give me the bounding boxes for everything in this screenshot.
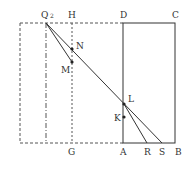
label-R: R <box>144 147 151 157</box>
label-Q: Q <box>41 10 48 20</box>
label-L: L <box>128 94 134 104</box>
label-H: H <box>68 10 76 20</box>
label-B: B <box>175 147 182 157</box>
label-A: A <box>119 147 127 157</box>
point-L <box>122 102 125 105</box>
point-K <box>122 115 125 118</box>
label-G: G <box>68 147 75 157</box>
point-M <box>70 60 73 63</box>
label-K: K <box>114 113 121 123</box>
points <box>70 47 125 118</box>
label-D: D <box>120 10 127 20</box>
label-S: S <box>159 147 165 157</box>
label-Q-sub: 2 <box>50 12 54 19</box>
label-C: C <box>172 10 179 20</box>
label-N: N <box>76 41 84 51</box>
label-M: M <box>61 65 70 75</box>
geometry-diagram: Q 2 H D C N M L K G A R S B <box>0 0 195 171</box>
rays-from-Q <box>46 23 162 143</box>
rectangle-ABCD <box>123 23 175 143</box>
point-N <box>70 47 73 50</box>
